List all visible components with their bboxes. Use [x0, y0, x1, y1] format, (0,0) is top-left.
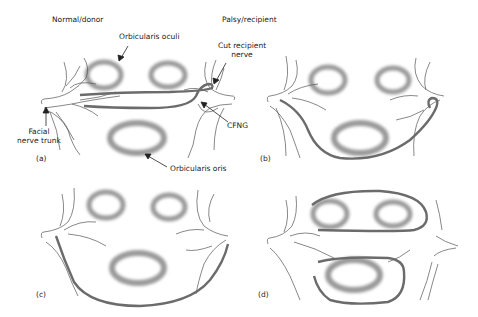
panel-label-a: (a): [36, 155, 46, 164]
orbicularis-oculi-left: [87, 62, 121, 88]
panel-c-illustration: [41, 188, 228, 306]
label-facial-line2: nerve trunk: [14, 137, 64, 146]
label-facial-nerve-trunk: Facial nerve trunk: [14, 128, 64, 145]
orbicularis-oris: [110, 123, 164, 153]
label-cfng: CFNG: [227, 122, 248, 131]
orbicularis-oculi-right: [151, 63, 185, 87]
panel-d-illustration: [267, 191, 458, 304]
panel-label-d: (d): [258, 291, 269, 300]
panel-a-illustration: [41, 58, 234, 158]
header-normal-donor: Normal/donor: [52, 16, 103, 25]
label-cut-recipient-nerve: Cut recipient nerve: [212, 42, 272, 59]
header-palsy-recipient: Palsy/recipient: [222, 16, 277, 25]
label-cut-recipient-line2: nerve: [212, 51, 272, 60]
panel-b-illustration: [267, 56, 444, 159]
label-orbicularis-oculi: Orbicularis oculi: [119, 33, 179, 42]
label-orbicularis-oris: Orbicularis oris: [170, 165, 227, 174]
panel-label-c: (c): [36, 291, 46, 300]
panel-label-b: (b): [260, 155, 271, 164]
annotation-arrows: [43, 46, 228, 167]
